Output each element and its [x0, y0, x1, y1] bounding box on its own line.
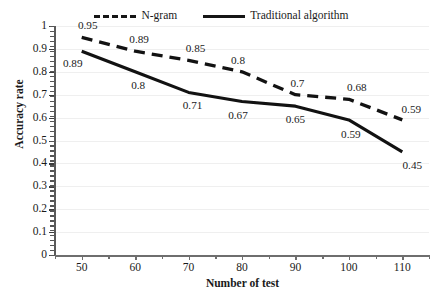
series-line-ngram [82, 37, 403, 119]
y-axis-minor-tick [50, 26, 54, 27]
x-axis-tick [349, 256, 350, 260]
x-axis-tick [402, 256, 403, 260]
y-axis-minor-tick [50, 250, 54, 251]
x-axis-minor-tick [376, 256, 377, 259]
y-axis-minor-tick [50, 111, 54, 112]
y-axis-minor-tick [50, 200, 54, 201]
y-axis-minor-tick [50, 76, 54, 77]
x-axis-tick [242, 256, 243, 260]
y-axis-minor-tick [50, 160, 54, 161]
y-axis-minor-tick [50, 195, 54, 196]
y-axis-minor-tick [50, 121, 54, 122]
y-axis-minor-tick [50, 220, 54, 221]
y-axis-minor-tick [50, 245, 54, 246]
y-axis-minor-tick [50, 165, 54, 166]
y-axis-minor-tick [50, 106, 54, 107]
data-point-label: 0.95 [78, 21, 98, 32]
y-axis-minor-tick [50, 66, 54, 67]
data-point-label: 0.7 [290, 78, 304, 89]
x-axis-tick [82, 256, 83, 260]
y-axis-minor-tick [50, 145, 54, 146]
x-axis-minor-tick [55, 256, 56, 259]
y-axis-minor-tick [50, 71, 54, 72]
x-axis-minor-tick [108, 256, 109, 259]
data-point-label: 0.67 [228, 110, 248, 121]
x-axis-minor-tick [269, 256, 270, 259]
y-axis-minor-tick [50, 230, 54, 231]
y-axis-minor-tick [50, 190, 54, 191]
x-axis-minor-tick [429, 256, 430, 259]
y-axis-minor-tick [50, 51, 54, 52]
y-axis-minor-tick [50, 126, 54, 127]
y-axis-minor-tick [50, 86, 54, 87]
y-axis-tick [49, 232, 54, 233]
x-axis-minor-tick [322, 256, 323, 259]
x-axis-tick [295, 256, 296, 260]
y-axis-minor-tick [50, 150, 54, 151]
data-point-label: 0.8 [231, 55, 245, 66]
y-axis-minor-tick [50, 131, 54, 132]
y-axis-minor-tick [50, 116, 54, 117]
y-axis-minor-tick [50, 255, 54, 256]
y-axis-minor-tick [50, 101, 54, 102]
y-axis-tick [49, 118, 54, 119]
y-axis-minor-tick [50, 56, 54, 57]
data-point-label: 0.89 [129, 35, 149, 46]
y-axis-minor-tick [50, 141, 54, 142]
y-axis-minor-tick [50, 215, 54, 216]
x-axis-tick [135, 256, 136, 260]
y-axis-minor-tick [50, 46, 54, 47]
y-axis-minor-tick [50, 96, 54, 97]
data-point-label: 0.65 [286, 115, 306, 126]
y-axis-minor-tick [50, 235, 54, 236]
y-axis-minor-tick [50, 240, 54, 241]
y-axis-minor-tick [50, 136, 54, 137]
y-axis-minor-tick [50, 155, 54, 156]
data-point-label: 0.8 [131, 80, 145, 91]
data-point-label: 0.59 [401, 104, 421, 115]
y-axis-minor-tick [50, 91, 54, 92]
y-axis-minor-tick [50, 175, 54, 176]
data-point-label: 0.85 [186, 44, 206, 55]
y-axis-minor-tick [50, 41, 54, 42]
data-point-label: 0.68 [347, 83, 367, 94]
y-axis-minor-tick [50, 31, 54, 32]
y-axis-minor-tick [50, 36, 54, 37]
y-axis-minor-tick [50, 180, 54, 181]
y-axis-minor-tick [50, 185, 54, 186]
data-point-label: 0.71 [183, 101, 203, 112]
series-layer [0, 0, 443, 307]
y-axis-minor-tick [50, 61, 54, 62]
data-point-label: 0.45 [402, 160, 422, 171]
y-axis-minor-tick [50, 81, 54, 82]
x-axis-minor-tick [162, 256, 163, 259]
data-point-label: 0.89 [63, 59, 83, 70]
data-point-label: 0.59 [341, 129, 361, 140]
y-axis-minor-tick [50, 225, 54, 226]
y-axis-minor-tick [50, 210, 54, 211]
y-axis-minor-tick [50, 205, 54, 206]
x-axis-minor-tick [215, 256, 216, 259]
x-axis-tick [189, 256, 190, 260]
y-axis-minor-tick [50, 170, 54, 171]
